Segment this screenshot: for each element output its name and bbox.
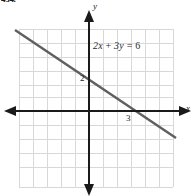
y-axis [84, 10, 94, 196]
y-intercept-label: 2 [80, 73, 85, 83]
y-axis-top-arrow [84, 10, 94, 22]
y-axis-label: y [93, 1, 97, 11]
x-axis-label: x [186, 103, 190, 113]
y-axis-bottom-arrow [84, 184, 94, 196]
equation-label: 2x + 3y = 6 [93, 40, 140, 51]
coordinate-plane [0, 0, 196, 196]
coordinate-plane-svg [0, 0, 196, 196]
grid-lines [19, 29, 173, 187]
x-axis-left-arrow [4, 106, 16, 116]
x-intercept-label: 3 [126, 113, 131, 123]
x-axis [4, 106, 191, 116]
graph-figure: 434. [0, 0, 196, 196]
